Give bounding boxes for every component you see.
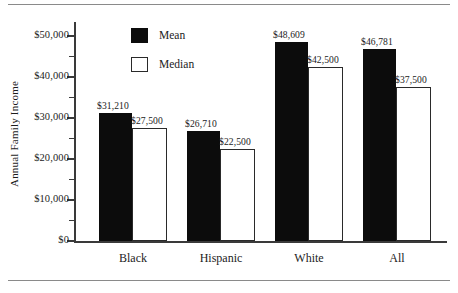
- y-axis-tick-minor: [69, 138, 75, 139]
- bar-mean-hispanic: [187, 131, 220, 241]
- y-axis-tick-label: $0: [58, 234, 69, 245]
- bar-label-median-white: $42,500: [307, 54, 339, 65]
- legend-label-median: Median: [159, 58, 194, 70]
- bar-label-mean-white: $48,609: [273, 29, 305, 40]
- y-axis-tick-label: $10,000: [34, 193, 69, 204]
- legend-entry-median: Median: [131, 55, 194, 73]
- y-axis-tick-label: $30,000: [34, 111, 69, 122]
- y-axis-tick-label: $50,000: [34, 29, 69, 40]
- bar-label-mean-all: $46,781: [361, 36, 393, 47]
- bar-median-hispanic: [220, 149, 255, 241]
- bar-label-mean-hispanic: $26,710: [185, 118, 217, 129]
- bar-mean-all: [363, 49, 396, 241]
- bar-label-mean-black: $31,210: [97, 100, 129, 111]
- bar-median-black: [132, 128, 167, 241]
- y-axis-tick-label: $20,000: [34, 152, 69, 163]
- bar-mean-white: [275, 42, 308, 241]
- bar-median-all: [396, 87, 431, 241]
- x-axis-line: [74, 241, 447, 243]
- bar-label-median-all: $37,500: [395, 74, 427, 85]
- y-axis-tick-label: $40,000: [34, 70, 69, 81]
- y-axis-tick-minor: [69, 56, 75, 57]
- y-axis-tick-minor: [69, 220, 75, 221]
- bar-chart-plot-area: Annual Family Income $0$10,000$20,000$30…: [0, 0, 458, 293]
- bar-label-median-black: $27,500: [131, 115, 163, 126]
- legend-swatch-median-icon: [131, 57, 148, 72]
- x-axis-label-all: All: [337, 251, 457, 266]
- figure: Annual Family Income $0$10,000$20,000$30…: [0, 0, 458, 293]
- bar-mean-black: [99, 113, 132, 241]
- y-axis-tick-minor: [69, 179, 75, 180]
- bar-median-white: [308, 67, 343, 241]
- bar-label-median-hispanic: $22,500: [219, 136, 251, 147]
- y-axis-title: Annual Family Income: [8, 46, 24, 221]
- y-axis-tick-minor: [69, 97, 75, 98]
- legend-entry-mean: Mean: [131, 26, 185, 44]
- legend-label-mean: Mean: [159, 29, 185, 41]
- legend-swatch-mean-icon: [131, 28, 148, 43]
